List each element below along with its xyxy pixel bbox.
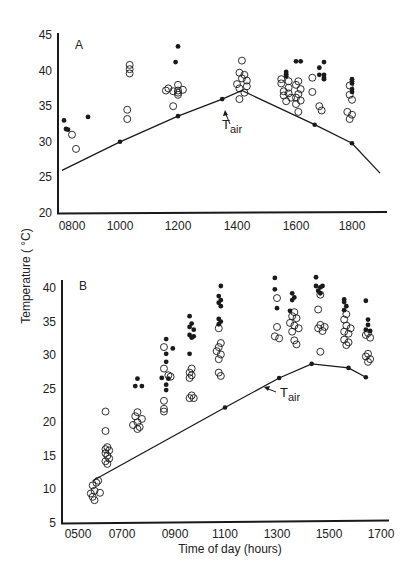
x-tick-label: 1600 — [283, 219, 310, 233]
filled-point — [187, 325, 192, 330]
y-tick-label: 20 — [39, 206, 53, 220]
tair-point — [118, 140, 123, 145]
tair-point — [364, 375, 369, 380]
open-point — [102, 408, 109, 415]
panel-a-tair-line — [62, 91, 380, 174]
panel-b-tair-annotation: Tair — [264, 385, 301, 403]
y-tick-label: 40 — [43, 281, 57, 295]
open-point — [346, 116, 353, 123]
open-point — [309, 88, 316, 95]
open-point — [293, 315, 300, 322]
filled-point — [290, 298, 295, 303]
panel-b: B 510152025303540 0500070009001100130015… — [43, 275, 395, 556]
tair-label: Tair — [280, 385, 301, 403]
open-point — [276, 335, 283, 342]
filled-point — [298, 59, 303, 64]
open-point — [160, 344, 167, 351]
filled-point — [133, 384, 138, 389]
open-point — [289, 328, 296, 335]
filled-point — [272, 287, 277, 292]
open-point — [134, 409, 141, 416]
figure: Temperature ( °C) A 202530354045 0800100… — [0, 0, 415, 568]
tair-point — [223, 405, 228, 410]
open-point — [124, 116, 131, 123]
x-tick-label: 0800 — [59, 219, 86, 233]
open-point — [274, 323, 281, 330]
open-point — [160, 397, 167, 404]
filled-point — [218, 284, 223, 289]
y-tick-label: 25 — [43, 382, 57, 396]
panel-a-x-ticks: 080010001200140016001800 — [59, 219, 366, 233]
open-point — [341, 328, 348, 335]
open-point — [295, 108, 302, 115]
filled-point — [317, 65, 322, 70]
tair-line — [62, 91, 380, 174]
y-tick-label: 35 — [43, 315, 57, 329]
open-point — [236, 96, 243, 103]
filled-point — [187, 351, 192, 356]
open-point — [215, 344, 222, 351]
filled-point — [86, 114, 91, 119]
filled-point — [218, 304, 223, 309]
x-tick-label: 1100 — [212, 527, 238, 541]
filled-point — [275, 306, 280, 311]
y-tick-label: 35 — [39, 99, 53, 113]
x-tick-label: 0900 — [162, 527, 189, 541]
filled-point — [176, 44, 181, 49]
y-tick-label: 30 — [39, 135, 53, 149]
open-point — [134, 426, 141, 433]
x-tick-label: 1300 — [264, 527, 291, 541]
arrowhead-icon — [223, 110, 228, 116]
filled-point — [139, 384, 144, 389]
filled-point — [363, 298, 368, 303]
open-point — [293, 341, 300, 348]
y-tick-label: 40 — [39, 64, 53, 78]
open-point — [309, 74, 316, 81]
tair-point — [309, 362, 314, 367]
open-point — [73, 145, 80, 152]
filled-point — [62, 118, 67, 123]
panel-b-data-points — [87, 275, 373, 504]
x-tick-label: 0700 — [109, 527, 136, 541]
x-tick-label: 1000 — [107, 219, 134, 233]
open-point — [285, 78, 292, 85]
panel-b-label: B — [79, 279, 87, 293]
panel-a-tair-annotation: Tair — [222, 110, 243, 135]
open-point — [217, 340, 224, 347]
y-tick-label: 25 — [39, 170, 53, 184]
filled-point — [322, 60, 327, 65]
filled-point — [191, 327, 196, 332]
filled-point — [173, 60, 178, 65]
filled-point — [159, 376, 164, 381]
tair-point — [277, 376, 282, 381]
open-point — [238, 57, 245, 64]
open-point — [318, 107, 325, 114]
y-tick-label: 10 — [43, 482, 57, 496]
x-tick-label: 1400 — [224, 219, 251, 233]
x-tick-label: 1700 — [368, 527, 395, 541]
open-point — [126, 70, 133, 77]
arrowhead-icon — [264, 386, 270, 391]
open-point — [321, 323, 328, 330]
filled-point — [187, 314, 192, 319]
open-point — [289, 313, 296, 320]
open-point — [274, 295, 281, 302]
open-point — [124, 106, 131, 113]
filled-point — [170, 346, 175, 351]
y-tick-label: 30 — [43, 348, 57, 362]
open-point — [283, 98, 290, 105]
panel-b-x-ticks: 0500070009001100130015001700 — [65, 527, 395, 541]
panel-a-y-ticks: 202530354045 — [39, 28, 53, 220]
filled-point — [164, 337, 169, 342]
tair-point — [176, 114, 181, 119]
panel-a-label: A — [75, 38, 83, 52]
panel-b-x-axis — [61, 521, 389, 524]
filled-point — [164, 359, 169, 364]
open-point — [160, 365, 167, 372]
tair-point — [312, 122, 317, 127]
y-tick-label: 5 — [49, 516, 56, 530]
filled-point — [272, 276, 277, 281]
open-point — [170, 103, 177, 110]
filled-point — [317, 72, 322, 77]
open-point — [278, 80, 285, 87]
